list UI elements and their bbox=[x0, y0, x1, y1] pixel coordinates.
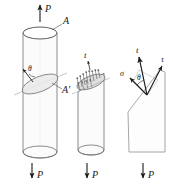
label-load-top: P bbox=[44, 3, 51, 14]
label-shear-stress-tau: τ bbox=[161, 55, 165, 64]
label-area-Aprime: A' bbox=[61, 84, 71, 95]
label-angle-theta-panel3: θ bbox=[137, 73, 141, 82]
label-load-bottom-1: P bbox=[36, 169, 43, 180]
bottom-load-arrow-group-3: P bbox=[143, 163, 154, 180]
figure-canvas: P A θ bbox=[0, 0, 173, 184]
panel-stress-components: t σ τ θ P bbox=[120, 45, 165, 180]
label-area-A: A bbox=[62, 15, 70, 26]
leader-line-area-A bbox=[52, 24, 62, 30]
top-load-arrow-group: P bbox=[40, 3, 51, 22]
label-normal-stress-sigma: σ bbox=[120, 69, 125, 78]
bottom-load-arrow-group-2: P bbox=[87, 163, 98, 180]
label-angle-theta: θ bbox=[28, 64, 32, 73]
traction-resultant-arrow-icon bbox=[88, 61, 90, 70]
panel-cylinder-with-inclined-section: P A θ bbox=[14, 3, 71, 180]
label-traction-t-panel2: t bbox=[84, 50, 87, 60]
label-load-bottom-2: P bbox=[91, 169, 98, 180]
cylinder-top-ellipse-area-A bbox=[23, 27, 57, 39]
bottom-load-arrow-group-1: P bbox=[32, 163, 43, 180]
label-traction-t-panel3: t bbox=[136, 45, 139, 55]
cylinder-body bbox=[23, 33, 57, 158]
label-load-bottom-3: P bbox=[147, 169, 154, 180]
panel-cut-cylinder-tractions: t P bbox=[72, 50, 110, 180]
stress-inclined-plane-figure: P A θ bbox=[0, 0, 173, 184]
